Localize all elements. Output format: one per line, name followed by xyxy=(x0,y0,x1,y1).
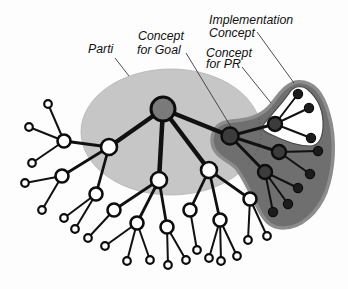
tree-node-open xyxy=(56,170,69,183)
leader-implementation-concept xyxy=(257,32,294,83)
tree-node-dark xyxy=(272,145,286,159)
tree-node-open xyxy=(101,139,117,155)
label-concept-for-pr-line2: for PR xyxy=(206,57,241,71)
tree-node-dark-leaf xyxy=(304,103,313,112)
tree-node-leaf xyxy=(21,179,29,187)
tree-node-open xyxy=(214,214,227,227)
tree-node-open xyxy=(184,204,197,217)
label-implementation-concept-line2: Concept xyxy=(209,26,255,40)
tree-node-leaf xyxy=(28,159,36,167)
concept-tree-diagram: Parti Concept for Goal Implementation Co… xyxy=(0,0,348,289)
label-parti: Parti xyxy=(88,42,115,56)
tree-node-open xyxy=(151,172,167,188)
label-concept-for-goal-line1: Concept xyxy=(138,29,184,43)
tree-node-leaf xyxy=(193,246,201,254)
tree-node-open xyxy=(201,162,217,178)
tree-node-leaf xyxy=(217,257,225,265)
tree-node-leaf xyxy=(146,256,154,264)
tree-node-dark-leaf xyxy=(313,146,322,155)
tree-node-open xyxy=(58,135,71,148)
node-concept-for-goal xyxy=(151,97,175,121)
tree-node-leaf xyxy=(101,242,109,250)
diagram-canvas: Parti Concept for Goal Implementation Co… xyxy=(0,0,348,289)
tree-node-dark-leaf xyxy=(293,183,302,192)
tree-node-dark-leaf xyxy=(293,89,302,98)
tree-node-leaf xyxy=(233,252,241,260)
tree-node-open xyxy=(161,221,174,234)
tree-node-open xyxy=(108,204,121,217)
tree-node-leaf xyxy=(44,100,52,108)
tree-node-leaf xyxy=(205,254,213,262)
tree-node-open xyxy=(131,217,144,230)
tree-node-open xyxy=(244,193,257,206)
tree-node-leaf xyxy=(182,256,190,264)
tree-node-dark xyxy=(258,165,272,179)
tree-node-leaf xyxy=(25,123,33,131)
tree-node-leaf xyxy=(60,214,68,222)
tree-node-leaf xyxy=(84,234,92,242)
tree-node-open xyxy=(90,188,103,201)
tree-node-leaf xyxy=(263,232,271,240)
tree-node-dark-leaf xyxy=(268,207,277,216)
tree-node-dark-leaf xyxy=(306,133,315,142)
tree-node-leaf xyxy=(244,236,252,244)
tree-node-dark-leaf xyxy=(305,169,314,178)
node-concept-for-pr xyxy=(222,128,239,145)
label-concept-for-goal-line2: for Goal xyxy=(137,43,182,57)
node-implementation-concept xyxy=(268,117,282,131)
tree-node-leaf xyxy=(164,261,172,269)
tree-node-dark-leaf xyxy=(283,199,292,208)
tree-node-leaf xyxy=(71,225,79,233)
tree-node-leaf xyxy=(123,257,131,265)
leader-parti xyxy=(115,58,129,76)
tree-node-leaf xyxy=(38,206,46,214)
